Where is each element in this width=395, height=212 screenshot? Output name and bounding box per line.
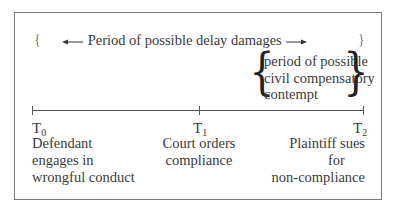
tick-t0 bbox=[32, 106, 33, 115]
description-t1-line-1: Court orders bbox=[149, 135, 249, 152]
right-big-brace: } bbox=[343, 44, 368, 100]
description-t2-line-1: Plaintiff sues bbox=[260, 135, 365, 152]
description-t2: Plaintiff sues for non-compliance bbox=[260, 135, 365, 186]
tick-t2 bbox=[363, 106, 364, 115]
left-span-brace: { bbox=[34, 32, 41, 48]
description-t0-line-3: wrongful conduct bbox=[32, 169, 135, 186]
description-t1-line-2: compliance bbox=[149, 152, 249, 169]
left-arrow-icon bbox=[62, 38, 84, 46]
tick-t1 bbox=[199, 106, 200, 115]
description-t2-line-3: non-compliance bbox=[260, 169, 365, 186]
description-t2-line-2: for bbox=[260, 152, 365, 169]
description-t1: Court orders compliance bbox=[149, 135, 249, 169]
right-arrow-icon bbox=[285, 38, 307, 46]
description-t0: Defendant engages in wrongful conduct bbox=[32, 135, 135, 186]
description-t0-line-2: engages in bbox=[32, 152, 135, 169]
description-t0-line-1: Defendant bbox=[32, 135, 135, 152]
timeline-axis bbox=[32, 110, 364, 111]
